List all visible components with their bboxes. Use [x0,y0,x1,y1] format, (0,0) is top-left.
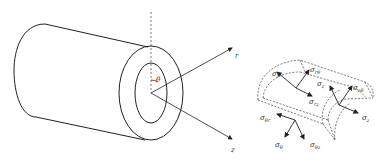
label-sigma-ztheta: σzθ [353,84,363,93]
label-sigma-r: σr [272,70,280,79]
r-label: r [235,52,239,60]
label-sigma-thetar: σθr [260,114,271,123]
arrow-sigma-theta [285,120,295,137]
label-sigma-rz: σrz [309,98,319,107]
diagram-canvas: θ r z σr σrθ σrz σz σzθ σz σθr σθ [0,0,386,161]
arrow-sigma-ztheta [339,86,352,105]
arrow-sigma-z [330,86,339,105]
arrow-sigma-rtheta [296,70,309,88]
arrow-sigma-rz [296,88,312,96]
z-axis [151,93,232,139]
cylinder-bottom-line [36,117,145,140]
cylinder-top-line [45,24,148,47]
z-label: z [230,146,235,154]
label-sigma-theta: σθ [275,141,283,150]
arrow-sigma-r [277,72,296,88]
label-sigma-thetaz: σθz [310,141,321,150]
label-sigma-zr: σz [362,114,370,123]
arrow-sigma-thetar [277,114,295,120]
cylinder-back-edge [14,24,45,117]
label-sigma-rtheta: σrθ [310,66,320,75]
r-axis [151,48,232,93]
arrow-sigma-thetaz [295,120,304,139]
label-sigma-z: σz [317,80,325,89]
theta-label: θ [156,76,161,84]
